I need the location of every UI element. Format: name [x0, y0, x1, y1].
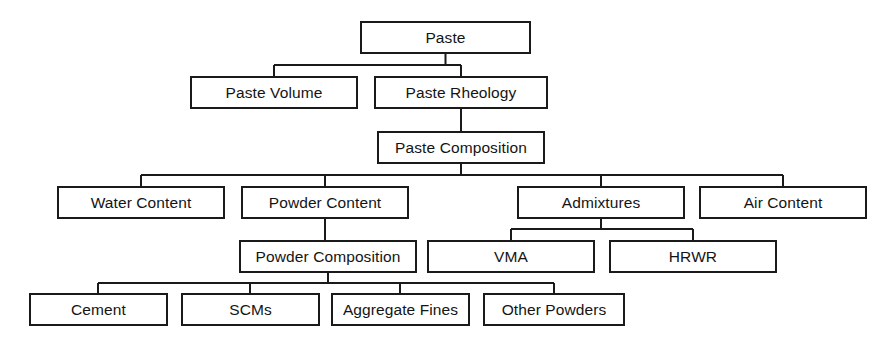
node-label-cement: Cement [71, 301, 126, 318]
node-label-aggregate-fines: Aggregate Fines [343, 301, 458, 318]
node-hrwr[interactable]: HRWR [610, 241, 776, 272]
connector-paste-to-children [274, 53, 461, 77]
node-water-content[interactable]: Water Content [58, 187, 224, 218]
node-aggregate-fines[interactable]: Aggregate Fines [332, 294, 469, 325]
node-other-powders[interactable]: Other Powders [484, 294, 624, 325]
hierarchy-tree-canvas: PastePaste VolumePaste RheologyPaste Com… [0, 0, 896, 344]
node-scms[interactable]: SCMs [182, 294, 319, 325]
node-air-content[interactable]: Air Content [700, 187, 866, 218]
node-label-powder-content: Powder Content [269, 194, 382, 211]
connector-composition-to-children [141, 163, 783, 187]
node-label-paste: Paste [425, 29, 465, 46]
node-label-vma: VMA [494, 248, 528, 265]
nodes-layer: PastePaste VolumePaste RheologyPaste Com… [30, 22, 866, 325]
node-vma[interactable]: VMA [428, 241, 594, 272]
node-label-hrwr: HRWR [669, 248, 717, 265]
node-paste[interactable]: Paste [361, 22, 530, 53]
node-admixtures[interactable]: Admixtures [518, 187, 684, 218]
node-label-paste-rheology: Paste Rheology [406, 84, 517, 101]
connector-powder-composition-to-children [98, 272, 554, 294]
node-label-other-powders: Other Powders [502, 301, 607, 318]
node-powder-content[interactable]: Powder Content [242, 187, 408, 218]
node-powder-composition[interactable]: Powder Composition [240, 241, 416, 272]
node-paste-composition[interactable]: Paste Composition [378, 132, 544, 163]
node-label-paste-composition: Paste Composition [395, 139, 527, 156]
node-paste-rheology[interactable]: Paste Rheology [375, 77, 547, 108]
node-label-water-content: Water Content [91, 194, 192, 211]
node-label-admixtures: Admixtures [562, 194, 641, 211]
node-label-paste-volume: Paste Volume [226, 84, 323, 101]
node-label-scms: SCMs [229, 301, 272, 318]
node-cement[interactable]: Cement [30, 294, 167, 325]
connector-admixtures-to-children [511, 218, 693, 241]
paste-hierarchy-diagram: PastePaste VolumePaste RheologyPaste Com… [0, 0, 896, 344]
node-label-powder-composition: Powder Composition [256, 248, 401, 265]
node-label-air-content: Air Content [744, 194, 823, 211]
node-paste-volume[interactable]: Paste Volume [191, 77, 357, 108]
